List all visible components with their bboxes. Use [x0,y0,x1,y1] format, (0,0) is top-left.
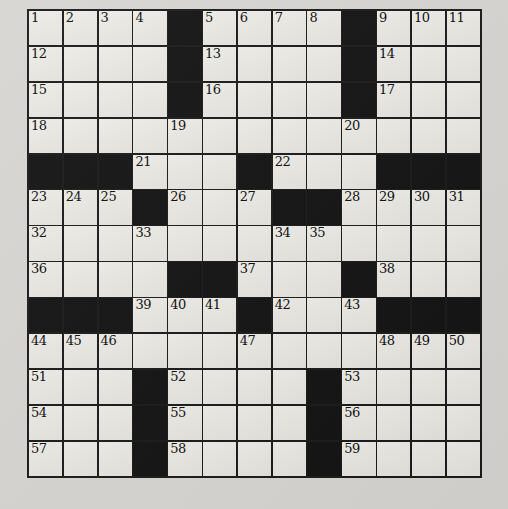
grid-cell-r9c10[interactable]: 43 [342,298,375,332]
grid-cell-r7c13[interactable] [447,226,480,260]
grid-cell-r6c11[interactable]: 29 [377,190,410,224]
grid-cell-r13c1[interactable]: 57 [29,442,62,476]
grid-cell-r5c8[interactable]: 22 [273,155,306,189]
grid-cell-r10c12[interactable]: 49 [412,334,445,368]
grid-cell-r13c6[interactable] [203,442,236,476]
grid-cell-r3c12[interactable] [412,83,445,117]
grid-cell-r3c2[interactable] [64,83,97,117]
grid-cell-r5c9[interactable] [307,155,340,189]
grid-cell-r11c6[interactable] [203,370,236,404]
grid-cell-r9c4[interactable]: 39 [133,298,166,332]
grid-cell-r2c2[interactable] [64,47,97,81]
grid-cell-r7c9[interactable]: 35 [307,226,340,260]
grid-cell-r7c2[interactable] [64,226,97,260]
grid-cell-r7c8[interactable]: 34 [273,226,306,260]
grid-cell-r12c2[interactable] [64,406,97,440]
grid-cell-r11c7[interactable] [238,370,271,404]
grid-cell-r5c10[interactable] [342,155,375,189]
grid-cell-r13c8[interactable] [273,442,306,476]
grid-cell-r4c12[interactable] [412,119,445,153]
grid-cell-r4c3[interactable] [99,119,132,153]
grid-cell-r5c6[interactable] [203,155,236,189]
grid-cell-r11c3[interactable] [99,370,132,404]
grid-cell-r8c7[interactable]: 37 [238,262,271,296]
grid-cell-r7c1[interactable]: 32 [29,226,62,260]
grid-cell-r6c7[interactable]: 27 [238,190,271,224]
grid-cell-r1c12[interactable]: 10 [412,11,445,45]
grid-cell-r10c7[interactable]: 47 [238,334,271,368]
grid-cell-r10c1[interactable]: 44 [29,334,62,368]
grid-cell-r13c11[interactable] [377,442,410,476]
grid-cell-r4c9[interactable] [307,119,340,153]
grid-cell-r8c9[interactable] [307,262,340,296]
grid-cell-r13c13[interactable] [447,442,480,476]
grid-cell-r12c13[interactable] [447,406,480,440]
grid-cell-r8c1[interactable]: 36 [29,262,62,296]
grid-cell-r3c4[interactable] [133,83,166,117]
grid-cell-r13c10[interactable]: 59 [342,442,375,476]
grid-cell-r2c7[interactable] [238,47,271,81]
grid-cell-r8c3[interactable] [99,262,132,296]
grid-cell-r2c9[interactable] [307,47,340,81]
grid-cell-r4c13[interactable] [447,119,480,153]
grid-cell-r1c11[interactable]: 9 [377,11,410,45]
grid-cell-r4c11[interactable] [377,119,410,153]
grid-cell-r4c7[interactable] [238,119,271,153]
grid-cell-r11c13[interactable] [447,370,480,404]
grid-cell-r4c10[interactable]: 20 [342,119,375,153]
grid-cell-r11c5[interactable]: 52 [168,370,201,404]
grid-cell-r3c3[interactable] [99,83,132,117]
grid-cell-r12c3[interactable] [99,406,132,440]
grid-cell-r4c2[interactable] [64,119,97,153]
grid-cell-r4c6[interactable] [203,119,236,153]
grid-cell-r3c9[interactable] [307,83,340,117]
grid-cell-r10c4[interactable] [133,334,166,368]
grid-cell-r6c1[interactable]: 23 [29,190,62,224]
grid-cell-r6c6[interactable] [203,190,236,224]
grid-cell-r6c3[interactable]: 25 [99,190,132,224]
grid-cell-r13c5[interactable]: 58 [168,442,201,476]
grid-cell-r2c8[interactable] [273,47,306,81]
grid-cell-r3c1[interactable]: 15 [29,83,62,117]
grid-cell-r8c2[interactable] [64,262,97,296]
grid-cell-r11c11[interactable] [377,370,410,404]
grid-cell-r13c2[interactable] [64,442,97,476]
grid-cell-r12c5[interactable]: 55 [168,406,201,440]
grid-cell-r10c2[interactable]: 45 [64,334,97,368]
grid-cell-r13c12[interactable] [412,442,445,476]
grid-cell-r6c2[interactable]: 24 [64,190,97,224]
grid-cell-r7c10[interactable] [342,226,375,260]
grid-cell-r10c13[interactable]: 50 [447,334,480,368]
grid-cell-r12c7[interactable] [238,406,271,440]
grid-cell-r12c11[interactable] [377,406,410,440]
grid-cell-r3c8[interactable] [273,83,306,117]
grid-cell-r2c3[interactable] [99,47,132,81]
grid-cell-r2c1[interactable]: 12 [29,47,62,81]
grid-cell-r1c8[interactable]: 7 [273,11,306,45]
grid-cell-r7c7[interactable] [238,226,271,260]
grid-cell-r3c7[interactable] [238,83,271,117]
grid-cell-r1c7[interactable]: 6 [238,11,271,45]
grid-cell-r5c5[interactable] [168,155,201,189]
grid-cell-r11c10[interactable]: 53 [342,370,375,404]
grid-cell-r3c6[interactable]: 16 [203,83,236,117]
grid-cell-r2c4[interactable] [133,47,166,81]
grid-cell-r2c12[interactable] [412,47,445,81]
grid-cell-r8c4[interactable] [133,262,166,296]
grid-cell-r1c2[interactable]: 2 [64,11,97,45]
grid-cell-r10c5[interactable] [168,334,201,368]
grid-cell-r2c6[interactable]: 13 [203,47,236,81]
grid-cell-r9c9[interactable] [307,298,340,332]
grid-cell-r3c11[interactable]: 17 [377,83,410,117]
grid-cell-r9c8[interactable]: 42 [273,298,306,332]
grid-cell-r6c12[interactable]: 30 [412,190,445,224]
grid-cell-r9c6[interactable]: 41 [203,298,236,332]
grid-cell-r3c13[interactable] [447,83,480,117]
grid-cell-r2c11[interactable]: 14 [377,47,410,81]
grid-cell-r8c8[interactable] [273,262,306,296]
grid-cell-r4c8[interactable] [273,119,306,153]
grid-cell-r7c11[interactable] [377,226,410,260]
grid-cell-r11c1[interactable]: 51 [29,370,62,404]
grid-cell-r12c10[interactable]: 56 [342,406,375,440]
grid-cell-r9c5[interactable]: 40 [168,298,201,332]
